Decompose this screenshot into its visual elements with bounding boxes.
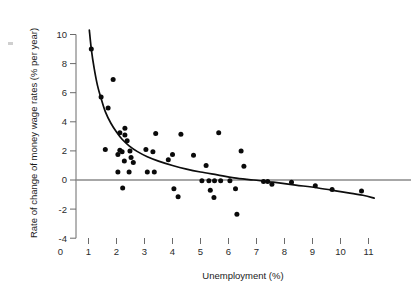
- scatter-point: [170, 152, 175, 157]
- y-tick-label: 8: [62, 58, 67, 69]
- phillips-curve-figure: -4-20246810 01234567891011 Unemployment …: [0, 0, 417, 290]
- x-tick-label: 2: [114, 246, 119, 257]
- y-tick-label: 0: [62, 174, 67, 185]
- scatter-point: [122, 126, 127, 131]
- scatter-point: [117, 130, 122, 135]
- y-tick-label: -2: [59, 204, 67, 215]
- y-tick-label: 10: [56, 29, 67, 40]
- scatter-point: [211, 195, 216, 200]
- scatter-point: [227, 178, 232, 183]
- y-tick-label: -4: [59, 233, 67, 244]
- scatter-point: [115, 152, 120, 157]
- x-tick-label: 8: [282, 246, 287, 257]
- x-tick-label: 7: [254, 246, 259, 257]
- scatter-point: [120, 186, 125, 191]
- scatter-point: [216, 130, 221, 135]
- scatter-point: [120, 149, 125, 154]
- scatter-point: [99, 95, 104, 100]
- scatter-point: [269, 182, 274, 187]
- scatter-point: [191, 153, 196, 158]
- x-tick-label: 5: [198, 246, 203, 257]
- x-tick-label: 11: [364, 246, 374, 257]
- x-tick-label: 1: [86, 246, 91, 257]
- scatter-plot-canvas: -4-20246810 01234567891011 Unemployment …: [0, 0, 417, 290]
- page-edge-artifact: [8, 42, 13, 45]
- y-tick-label: 2: [62, 145, 67, 156]
- x-tick-label: 4: [170, 246, 175, 257]
- scatter-point: [204, 163, 209, 168]
- scatter-point: [125, 138, 130, 143]
- scatter-point: [265, 179, 270, 184]
- x-tick-label: 9: [310, 246, 315, 257]
- scatter-point: [241, 164, 246, 169]
- scatter-point: [176, 194, 181, 199]
- scatter-point: [129, 155, 134, 160]
- scatter-point: [178, 132, 183, 137]
- scatter-point: [330, 187, 335, 192]
- scatter-point: [166, 157, 171, 162]
- scatter-point: [103, 147, 108, 152]
- scatter-point: [122, 132, 127, 137]
- x-tick-label: 3: [142, 246, 147, 257]
- scatter-point: [115, 170, 120, 175]
- scatter-point: [313, 183, 318, 188]
- x-tick-label: 10: [335, 246, 346, 257]
- scatter-point: [127, 148, 132, 153]
- scatter-point: [208, 188, 213, 193]
- y-axis-title: Rate of change of money wage rates (% pe…: [28, 28, 39, 238]
- scatter-point: [152, 170, 157, 175]
- scatter-point: [106, 105, 111, 110]
- scatter-point: [89, 47, 94, 52]
- scatter-point: [150, 149, 155, 154]
- scatter-point: [233, 186, 238, 191]
- scatter-point: [131, 160, 136, 165]
- scatter-point: [127, 170, 132, 175]
- y-tick-label: 6: [62, 87, 67, 98]
- scatter-point: [239, 148, 244, 153]
- scatter-point: [212, 178, 217, 183]
- scatter-point: [122, 159, 127, 164]
- scatter-point: [218, 178, 223, 183]
- scatter-point: [145, 170, 150, 175]
- x-axis-title: Unemployment (%): [202, 270, 283, 281]
- scatter-point: [171, 186, 176, 191]
- scatter-point: [143, 147, 148, 152]
- scatter-point: [206, 178, 211, 183]
- y-tick-label: 4: [62, 116, 67, 127]
- x-tick-label: 0: [58, 246, 63, 257]
- scatter-point: [199, 178, 204, 183]
- scatter-point: [289, 180, 294, 185]
- scatter-point: [153, 131, 158, 136]
- scatter-point: [111, 77, 116, 82]
- scatter-point: [359, 188, 364, 193]
- x-tick-label: 6: [226, 246, 231, 257]
- scatter-point: [234, 212, 239, 217]
